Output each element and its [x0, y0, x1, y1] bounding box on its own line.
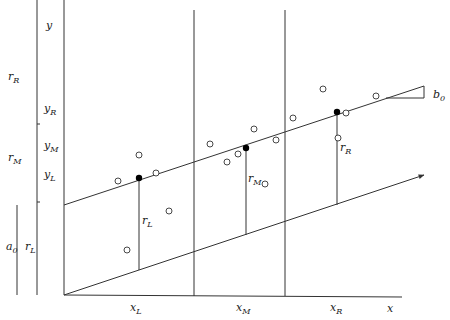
data-point [320, 86, 326, 92]
x-axis [64, 295, 402, 297]
intercept-label: a0 [6, 240, 18, 255]
residual-label-M: rM [248, 172, 262, 187]
x-group-label-R: xR [330, 301, 342, 316]
x-group-label-L: xL [130, 301, 142, 316]
data-point [273, 137, 279, 143]
fitted-line [64, 86, 424, 205]
scale-label-rL: rL [25, 240, 36, 255]
data-point [343, 110, 349, 116]
residual-label-L: rL [142, 214, 153, 229]
data-point [235, 151, 241, 157]
scale-label-rM: rM [8, 151, 22, 166]
data-point [207, 141, 213, 147]
data-point [153, 170, 159, 176]
x-axis-label: x [387, 302, 394, 315]
data-point [124, 247, 130, 253]
data-point [166, 208, 172, 214]
parallel-line-through-origin [64, 175, 424, 295]
summary-point-middle [243, 145, 249, 151]
data-point [262, 181, 268, 187]
y-group-label-L: yL [43, 168, 56, 183]
slope-label: b0 [433, 88, 445, 103]
data-point [115, 178, 121, 184]
data-point [224, 159, 230, 165]
summary-point-right [334, 109, 340, 115]
y-group-label-M: yM [43, 139, 59, 154]
summary-point-left [136, 175, 142, 181]
data-point [373, 93, 379, 99]
data-point [290, 115, 296, 121]
residual-label-R: rR [340, 141, 351, 156]
y-group-label-R: yR [43, 102, 56, 117]
data-point [251, 126, 257, 132]
y-axis-label: y [45, 19, 53, 32]
scale-label-rR: rR [8, 70, 19, 85]
data-point [136, 152, 142, 158]
x-group-label-M: xM [236, 301, 251, 316]
resistant-line-diagram: y rR rM rL a0 yR yM yL rL rM rR b0 xL xM… [0, 0, 450, 320]
